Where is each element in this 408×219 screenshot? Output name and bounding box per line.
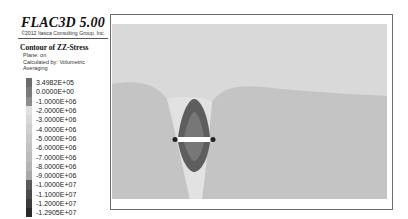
legend-swatch <box>26 143 32 152</box>
legend-label: -1.2000E+07 <box>36 199 76 208</box>
legend-swatch <box>26 152 32 161</box>
legend-entry: -7.0000E+06 <box>26 152 76 161</box>
legend-entry: -1.0000E+06 <box>26 97 76 106</box>
legend-label: -4.0000E+06 <box>36 125 76 134</box>
legend-label: -5.0000E+06 <box>36 134 76 143</box>
legend-swatch <box>26 134 32 143</box>
legend-label: -6.0000E+06 <box>36 143 76 152</box>
legend-label: -2.0000E+06 <box>36 106 76 115</box>
legend-entry: -3.0000E+06 <box>26 115 76 124</box>
legend-entry: -6.0000E+06 <box>26 143 76 152</box>
legend-entry: -5.0000E+06 <box>26 134 76 143</box>
contour-plot[interactable] <box>112 24 387 199</box>
legend-swatch <box>26 124 32 133</box>
legend-panel: FLAC3D 5.00 ©2012 Itasca Consulting Grou… <box>16 14 111 210</box>
legend-label: -7.0000E+06 <box>36 153 76 162</box>
copyright-text: ©2012 Itasca Consulting Group, Inc. <box>18 30 108 39</box>
legend-label: -1.1000E+07 <box>36 190 76 199</box>
legend-swatch <box>26 180 32 189</box>
legend-swatch <box>26 78 32 87</box>
contour-title: Contour of ZZ-Stress <box>20 43 110 52</box>
legend-entry: -4.0000E+06 <box>26 124 76 133</box>
legend-label: 3.4982E+05 <box>36 78 74 87</box>
legend-label: -1.0000E+06 <box>36 97 76 106</box>
legend-label: -9.0000E+06 <box>36 171 76 180</box>
legend-label: -1.2905E+07 <box>36 208 76 217</box>
legend-swatch <box>26 190 32 199</box>
legend-entry: -1.2905E+07 <box>26 208 76 217</box>
legend-label: -8.0000E+06 <box>36 162 76 171</box>
legend-swatch <box>26 87 32 96</box>
legend-swatch <box>26 171 32 180</box>
contour-plot-svg <box>112 24 387 199</box>
legend-entry: -1.2000E+07 <box>26 199 76 208</box>
legend-swatch <box>26 115 32 124</box>
legend-swatch <box>26 97 32 106</box>
legend-swatch <box>26 162 32 171</box>
legend-swatch <box>26 106 32 115</box>
legend-label: 0.0000E+00 <box>36 87 74 96</box>
calc-method: Calculated by: Volumetric Averaging <box>23 59 110 72</box>
legend-entry: -2.0000E+06 <box>26 106 76 115</box>
legend-entry: 0.0000E+00 <box>26 87 76 96</box>
legend-entry: -1.0000E+07 <box>26 180 76 189</box>
legend-label: -3.0000E+06 <box>36 115 76 124</box>
legend-swatch <box>26 199 32 208</box>
legend-entry: -8.0000E+06 <box>26 162 76 171</box>
legend-entry: -1.1000E+07 <box>26 190 76 199</box>
legend-entry: 3.4982E+05 <box>26 78 76 87</box>
app-title: FLAC3D 5.00 <box>16 15 110 31</box>
legend-swatch <box>26 208 32 217</box>
legend-label: -1.0000E+07 <box>36 180 76 189</box>
legend-entry: -9.0000E+06 <box>26 171 76 180</box>
color-scale: 3.4982E+050.0000E+00-1.0000E+06-2.0000E+… <box>26 78 76 217</box>
